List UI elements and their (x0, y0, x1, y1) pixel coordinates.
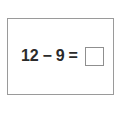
minus-operator-icon: − (41, 48, 52, 64)
equation-row: 12 − 9 = (21, 45, 104, 67)
answer-input-box[interactable] (85, 47, 104, 66)
operand-right: 9 (56, 48, 65, 64)
problem-card: 12 − 9 = (7, 18, 114, 95)
operand-left: 12 (21, 48, 38, 64)
equals-operator-icon: = (67, 48, 78, 64)
